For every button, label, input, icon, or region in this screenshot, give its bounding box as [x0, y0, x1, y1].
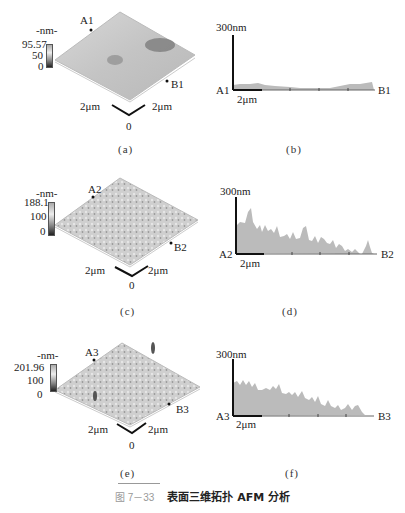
y-max-label: 300nm	[216, 349, 247, 360]
panel-label: (f)	[285, 467, 299, 479]
figure-caption: 图 7－33 表面三维拓扑 AFM 分析	[0, 488, 405, 505]
caption-rule	[118, 483, 160, 484]
scale-label: 2μm	[236, 419, 256, 430]
figure-title: 表面三维拓扑 AFM 分析	[167, 491, 290, 504]
profile-chart-f	[0, 0, 405, 513]
figure-number: 图 7－33	[115, 492, 154, 503]
end-label: B3	[378, 411, 391, 422]
start-label: A3	[216, 411, 229, 422]
